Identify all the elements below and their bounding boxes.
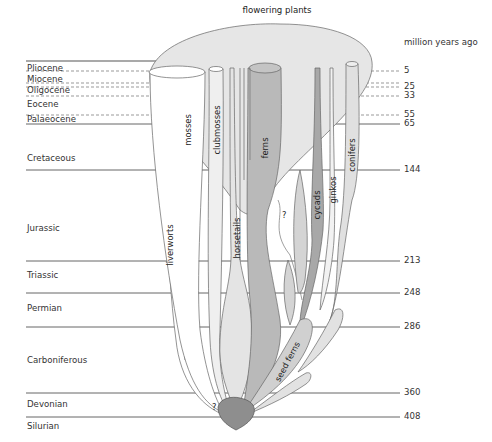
liverworts-label: liverworts xyxy=(165,224,175,265)
flowering-plants-label: flowering plants xyxy=(243,5,312,15)
age-408: 408 xyxy=(404,411,420,421)
phylogeny-chart: flowering plants liverworts mosses clubm… xyxy=(0,0,492,442)
age-286: 286 xyxy=(404,321,420,331)
period-pliocene: Pliocene xyxy=(27,63,63,73)
period-permian: Permian xyxy=(27,303,62,313)
clubmosses-label: clubmosses xyxy=(212,105,222,154)
age-144: 144 xyxy=(404,164,420,174)
plant-evolution-diagram: flowering plants liverworts mosses clubm… xyxy=(0,0,492,442)
age-5: 5 xyxy=(404,65,409,75)
period-silurian: Silurian xyxy=(27,421,59,431)
period-eocene: Eocene xyxy=(27,99,58,109)
period-jurassic: Jurassic xyxy=(27,223,60,233)
period-miocene: Miocene xyxy=(27,74,63,84)
age-33: 33 xyxy=(404,90,415,100)
age-248: 248 xyxy=(404,287,420,297)
conifers-label: conifers xyxy=(347,138,357,171)
period-palaeocene: Palaeocene xyxy=(27,114,76,124)
mosses-label: mosses xyxy=(183,114,193,146)
period-cretaceous: Cretaceous xyxy=(27,153,75,163)
unknown-label: ? xyxy=(212,402,216,412)
ginkos-label: ginkos xyxy=(328,177,338,204)
period-carboniferous: Carboniferous xyxy=(27,355,87,365)
ferns-label: ferns xyxy=(260,137,270,158)
period-devonian: Devonian xyxy=(27,399,68,409)
horsetails-label: horsetails xyxy=(232,218,242,259)
ancestral-root-shape xyxy=(218,397,254,430)
unknown-label: ? xyxy=(282,210,286,220)
period-triassic: Triassic xyxy=(27,270,58,280)
age-360: 360 xyxy=(404,387,420,397)
age-213: 213 xyxy=(404,255,420,265)
cycads-label: cycads xyxy=(312,191,322,220)
age-65: 65 xyxy=(404,118,415,128)
axis-label: million years ago xyxy=(404,37,478,47)
period-oligocene: Oligocene xyxy=(27,85,70,95)
